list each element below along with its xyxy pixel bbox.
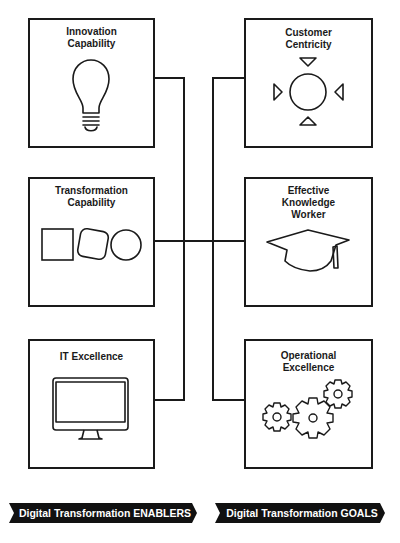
gears-icon	[0, 0, 400, 543]
enablers-banner: Digital Transformation ENABLERS	[9, 503, 197, 523]
enablers-banner-label: Digital Transformation ENABLERS	[9, 503, 197, 523]
goals-banner-label: Digital Transformation GOALS	[215, 503, 385, 523]
goals-banner: Digital Transformation GOALS	[215, 503, 385, 523]
